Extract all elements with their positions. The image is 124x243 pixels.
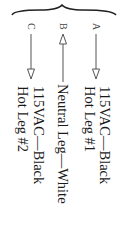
leg-a-voltage-label: 115VAC—Black <box>97 86 113 185</box>
leg-c: C 115VAC—Black Hot Leg #2 <box>15 23 47 185</box>
leg-b: B Neutral Leg—White <box>55 23 71 204</box>
wiring-diagram: A 115VAC—Black Hot Leg #1 B Neutral Leg—… <box>0 0 124 243</box>
arrow-up-icon <box>60 34 67 44</box>
leg-c-name-label: Hot Leg #2 <box>15 86 31 152</box>
leg-b-label: Neutral Leg—White <box>55 84 71 204</box>
leg-a-name-label: Hot Leg #1 <box>82 86 98 152</box>
leg-a: A 115VAC—Black Hot Leg #1 <box>82 23 113 185</box>
leg-c-letter: C <box>26 23 37 30</box>
arrow-down-icon <box>93 69 100 79</box>
leg-b-letter: B <box>58 23 69 30</box>
leg-a-letter: A <box>91 23 102 31</box>
grouping-brace <box>12 5 116 15</box>
leg-c-voltage-label: 115VAC—Black <box>31 86 47 185</box>
arrow-down-icon <box>28 69 35 79</box>
